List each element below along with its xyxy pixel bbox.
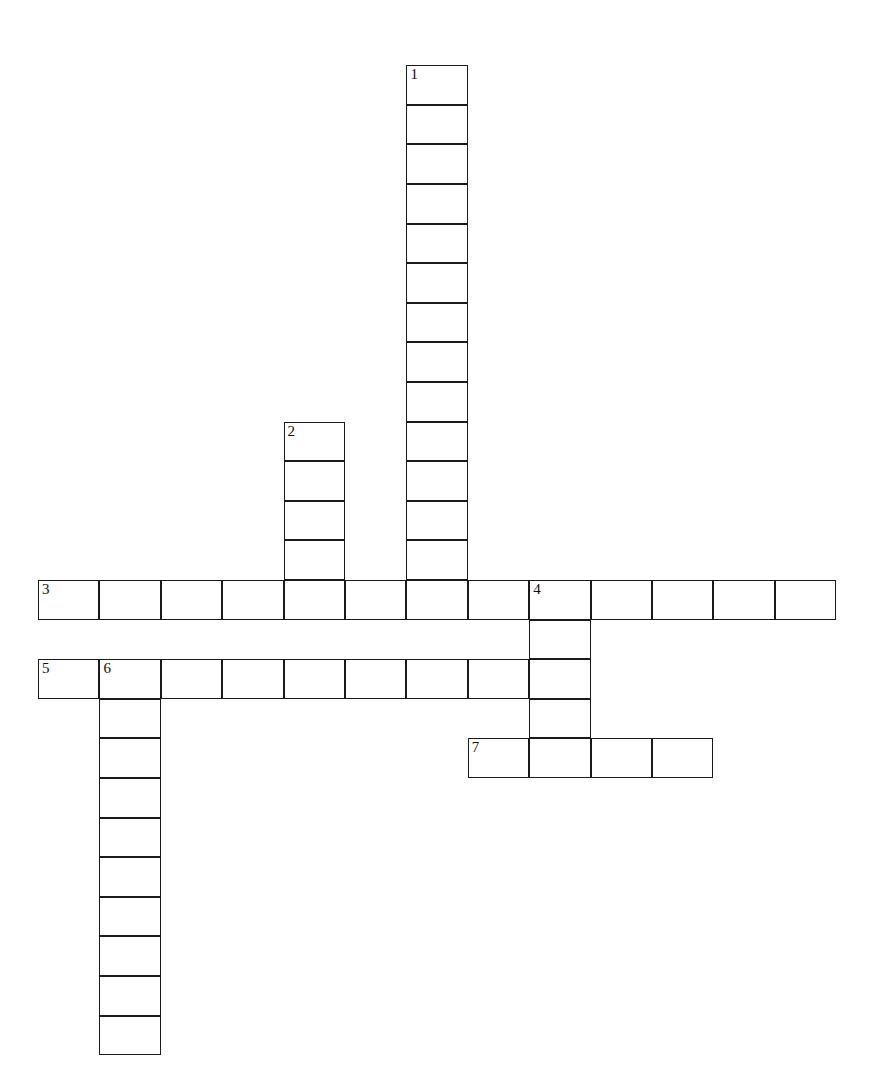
crossword-cell[interactable] bbox=[284, 540, 345, 580]
crossword-cell[interactable] bbox=[406, 422, 467, 462]
crossword-cell[interactable] bbox=[99, 778, 160, 818]
crossword-grid[interactable]: 1234567 bbox=[0, 0, 882, 1065]
crossword-cell[interactable] bbox=[713, 580, 774, 620]
cell-number-4: 4 bbox=[533, 581, 541, 598]
crossword-cell[interactable] bbox=[529, 659, 590, 699]
crossword-cell[interactable] bbox=[591, 580, 652, 620]
crossword-cell[interactable] bbox=[284, 580, 345, 620]
crossword-cell[interactable] bbox=[406, 144, 467, 184]
crossword-cell[interactable] bbox=[406, 659, 467, 699]
crossword-cell[interactable] bbox=[406, 105, 467, 145]
cell-number-6: 6 bbox=[103, 660, 111, 677]
crossword-cell[interactable] bbox=[406, 580, 467, 620]
cell-number-1: 1 bbox=[410, 66, 418, 83]
crossword-cell[interactable] bbox=[99, 738, 160, 778]
crossword-cell[interactable] bbox=[529, 699, 590, 739]
crossword-cell[interactable] bbox=[406, 224, 467, 264]
crossword-cell[interactable] bbox=[345, 580, 406, 620]
crossword-cell[interactable] bbox=[406, 501, 467, 541]
crossword-cell[interactable]: 1 bbox=[406, 65, 467, 105]
crossword-cell[interactable]: 6 bbox=[99, 659, 160, 699]
crossword-cell[interactable] bbox=[284, 461, 345, 501]
crossword-cell[interactable] bbox=[652, 580, 713, 620]
crossword-cell[interactable] bbox=[775, 580, 836, 620]
crossword-cell[interactable] bbox=[529, 620, 590, 660]
crossword-cell[interactable] bbox=[222, 580, 283, 620]
crossword-cell[interactable] bbox=[406, 303, 467, 343]
crossword-cell[interactable] bbox=[99, 976, 160, 1016]
crossword-cell[interactable] bbox=[468, 659, 529, 699]
crossword-cell[interactable]: 5 bbox=[38, 659, 99, 699]
crossword-cell[interactable] bbox=[99, 699, 160, 739]
crossword-cell[interactable] bbox=[161, 659, 222, 699]
crossword-cell[interactable] bbox=[99, 936, 160, 976]
crossword-cell[interactable] bbox=[161, 580, 222, 620]
crossword-cell[interactable] bbox=[284, 659, 345, 699]
crossword-cell[interactable] bbox=[591, 738, 652, 778]
crossword-cell[interactable] bbox=[406, 263, 467, 303]
crossword-cell[interactable] bbox=[406, 342, 467, 382]
cell-number-2: 2 bbox=[288, 423, 296, 440]
crossword-puzzle: 1234567 bbox=[0, 0, 882, 1065]
crossword-cell[interactable] bbox=[468, 580, 529, 620]
crossword-cell[interactable] bbox=[99, 818, 160, 858]
crossword-cell[interactable] bbox=[406, 540, 467, 580]
crossword-cell[interactable] bbox=[529, 738, 590, 778]
crossword-cell[interactable]: 3 bbox=[38, 580, 99, 620]
crossword-cell[interactable] bbox=[99, 857, 160, 897]
crossword-cell[interactable]: 4 bbox=[529, 580, 590, 620]
crossword-cell[interactable] bbox=[406, 461, 467, 501]
crossword-cell[interactable] bbox=[284, 501, 345, 541]
crossword-cell[interactable] bbox=[99, 580, 160, 620]
crossword-cell[interactable] bbox=[99, 897, 160, 937]
crossword-cell[interactable] bbox=[345, 659, 406, 699]
crossword-cell[interactable] bbox=[222, 659, 283, 699]
cell-number-3: 3 bbox=[42, 581, 50, 598]
crossword-cell[interactable]: 7 bbox=[468, 738, 529, 778]
crossword-cell[interactable] bbox=[99, 1016, 160, 1056]
crossword-cell[interactable] bbox=[406, 382, 467, 422]
crossword-cell[interactable]: 2 bbox=[284, 422, 345, 462]
crossword-cell[interactable] bbox=[652, 738, 713, 778]
cell-number-5: 5 bbox=[42, 660, 50, 677]
crossword-cell[interactable] bbox=[406, 184, 467, 224]
cell-number-7: 7 bbox=[472, 739, 480, 756]
